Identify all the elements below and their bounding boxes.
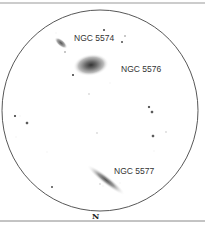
stars	[13, 29, 167, 189]
north-indicator: N	[92, 211, 99, 221]
galaxy-ngc5574	[53, 35, 70, 51]
galaxy-ngc5576	[72, 52, 111, 79]
label-ngc5576: NGC 5576	[121, 64, 161, 74]
label-ngc5574: NGC 5574	[74, 33, 114, 43]
label-ngc5577: NGC 5577	[114, 166, 154, 176]
